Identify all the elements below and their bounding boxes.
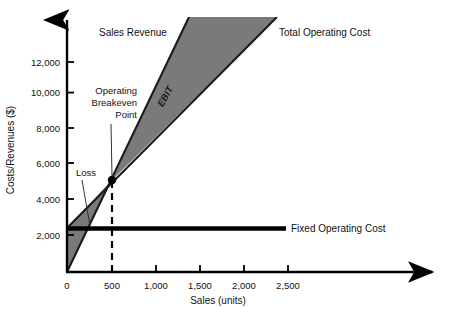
sales-revenue-label: Sales Revenue — [99, 27, 167, 38]
total-operating-cost-label: Total Operating Cost — [279, 27, 370, 38]
breakeven-label-line3: Point — [115, 109, 137, 120]
x-tick-label-2000: 2,000 — [232, 280, 256, 291]
x-tick-label-500: 500 — [104, 280, 120, 291]
chart-canvas: 12,000 10,000 8,000 6,000 4,000 2,000 0 … — [0, 0, 452, 314]
y-tick-label-8000: 8,000 — [36, 123, 60, 134]
breakeven-point-marker — [108, 176, 116, 184]
breakeven-label-line1: Operating — [95, 85, 137, 96]
y-tick-label-12000: 12,000 — [31, 57, 60, 68]
y-axis-title: Costs/Revenues ($) — [5, 106, 16, 194]
breakeven-label-line2: Breakeven — [92, 97, 137, 108]
y-tick-label-4000: 4,000 — [36, 194, 60, 205]
x-axis-title: Sales (units) — [190, 295, 246, 306]
y-tick-label-2000: 2,000 — [36, 230, 60, 241]
x-tick-label-0: 0 — [64, 280, 69, 291]
x-tick-label-2500: 2,500 — [276, 280, 300, 291]
breakeven-chart: 12,000 10,000 8,000 6,000 4,000 2,000 0 … — [0, 0, 452, 314]
fixed-operating-cost-label: Fixed Operating Cost — [291, 223, 386, 234]
x-tick-label-1500: 1,500 — [188, 280, 212, 291]
loss-label: Loss — [76, 167, 96, 178]
y-tick-label-6000: 6,000 — [36, 158, 60, 169]
x-tick-label-1000: 1,000 — [144, 280, 168, 291]
y-tick-label-10000: 10,000 — [31, 87, 60, 98]
